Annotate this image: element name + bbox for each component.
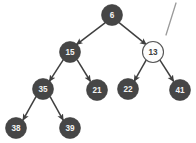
tree-node-6-label: 6 (110, 11, 115, 20)
tree-node-21[interactable]: 21 (87, 80, 108, 101)
tree-node-39-label: 39 (65, 124, 75, 133)
edge-6-15 (76, 23, 105, 45)
tree-node-39[interactable]: 39 (60, 118, 81, 139)
tree-node-41[interactable]: 41 (170, 80, 191, 101)
stray-slash-icon (166, 3, 176, 35)
edge-group (23, 23, 174, 121)
tree-node-13[interactable]: 13 (143, 42, 164, 63)
tree-node-15-label: 15 (65, 48, 75, 57)
stray-diagonal-mark (166, 3, 176, 35)
edge-15-21 (77, 60, 90, 82)
edge-13-22 (134, 60, 146, 82)
edge-6-13 (119, 23, 146, 45)
edge-13-41 (160, 60, 174, 82)
edge-35-39 (50, 97, 63, 121)
tree-node-38[interactable]: 38 (6, 118, 27, 139)
tree-node-22-label: 22 (123, 85, 133, 94)
tree-node-35[interactable]: 35 (33, 79, 54, 100)
tree-node-21-label: 21 (92, 86, 102, 95)
tree-node-22[interactable]: 22 (118, 79, 139, 100)
tree-node-41-label: 41 (175, 86, 185, 95)
tree-node-35-label: 35 (38, 85, 48, 94)
tree-node-6[interactable]: 6 (102, 5, 123, 26)
binary-tree-diagram: 6 15 13 35 21 22 41 38 (0, 0, 196, 143)
tree-node-38-label: 38 (11, 124, 21, 133)
tree-node-13-label: 13 (148, 48, 158, 57)
tree-node-15[interactable]: 15 (60, 42, 81, 63)
node-group: 6 15 13 35 21 22 41 38 (6, 5, 191, 139)
edge-35-38 (23, 97, 36, 121)
edge-15-35 (49, 60, 63, 82)
